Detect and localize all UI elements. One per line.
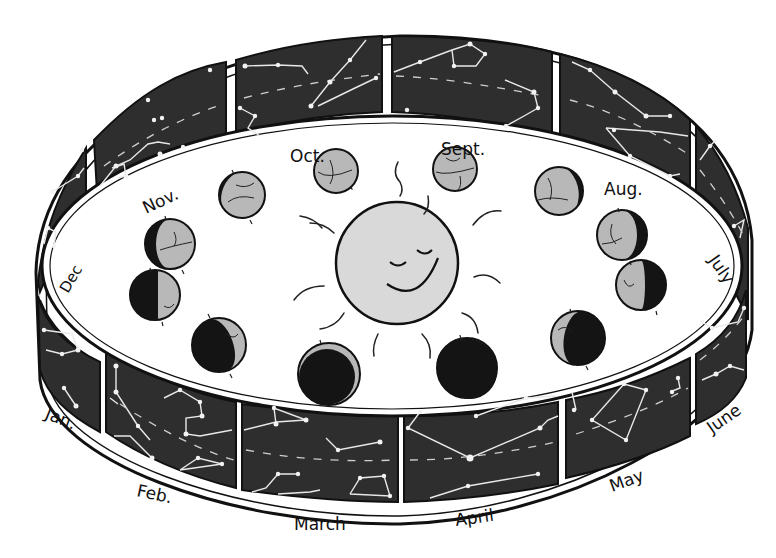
label-april: April: [454, 505, 495, 530]
label-march: March: [294, 514, 346, 534]
earth-aug-2: [616, 260, 666, 310]
earth-jan: [130, 270, 180, 320]
earth-nov: [145, 219, 195, 269]
band-panel-april: [404, 402, 558, 502]
earth-sept-2: [535, 167, 583, 215]
earth-aug-1: [597, 210, 647, 260]
earth-may: [437, 338, 497, 399]
earth-oct-1: [219, 172, 265, 218]
label-oct: Oct.: [290, 146, 325, 166]
label-sept: Sept.: [441, 139, 485, 159]
earth-apr: [298, 343, 360, 405]
label-aug: Aug.: [604, 179, 643, 199]
orbit-diagram: Oct. Sept. Aug. July June May April Marc…: [0, 0, 776, 558]
